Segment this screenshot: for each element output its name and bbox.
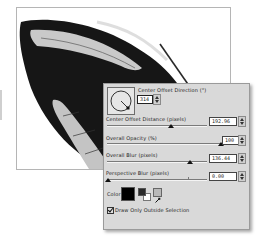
offset-distance-thumb[interactable] — [168, 124, 174, 128]
offset-distance-stepper[interactable] — [238, 116, 246, 127]
draw-outside-label: Draw Only Outside Selection — [115, 207, 189, 213]
stepper-up-icon[interactable] — [240, 137, 244, 140]
track-tick — [188, 177, 189, 180]
blur-thumb[interactable] — [187, 160, 193, 164]
dial-icon — [108, 88, 134, 114]
stepper-down-icon[interactable] — [240, 177, 244, 180]
edge-mark — [0, 90, 2, 120]
stepper-down-icon[interactable] — [240, 122, 244, 125]
perspective-blur-label: Perspective Blur (pixels) — [106, 170, 169, 176]
draw-outside-checkbox[interactable] — [107, 207, 114, 214]
offset-distance-track[interactable] — [107, 125, 207, 127]
stepper-down-icon[interactable] — [240, 141, 244, 144]
perspective-blur-input[interactable]: 0.00 — [209, 172, 237, 181]
perspective-blur-thumb[interactable] — [105, 178, 111, 182]
perspective-blur-track[interactable] — [107, 179, 207, 181]
stepper-up-icon[interactable] — [240, 173, 244, 176]
direction-dial[interactable] — [107, 87, 135, 115]
stepper-down-icon[interactable] — [240, 159, 244, 162]
drop-shadow-panel: Center Offset Direction (°) 314 Center O… — [103, 83, 250, 230]
blur-label: Overall Blur (pixels) — [106, 152, 158, 158]
opacity-stepper[interactable] — [238, 135, 246, 146]
eyedropper-button[interactable] — [153, 188, 162, 197]
opacity-label: Overall Opacity (%) — [106, 135, 157, 141]
color-label: Color — [107, 191, 121, 197]
direction-input[interactable]: 314 — [137, 95, 153, 104]
offset-distance-label: Center Offset Distance (pixels) — [106, 116, 186, 122]
stepper-up-icon[interactable] — [240, 118, 244, 121]
perspective-blur-stepper[interactable] — [238, 171, 246, 182]
opacity-track[interactable] — [107, 143, 222, 145]
offset-distance-input[interactable]: 192.96 — [209, 117, 237, 126]
direction-stepper[interactable] — [153, 94, 161, 105]
stepper-up-icon[interactable] — [240, 155, 244, 158]
blur-stepper[interactable] — [238, 153, 246, 164]
color-swatch[interactable] — [121, 187, 135, 201]
foreground-color-chip[interactable] — [138, 188, 146, 196]
blur-input[interactable]: 136.44 — [209, 154, 237, 163]
direction-label: Center Offset Direction (°) — [138, 87, 206, 93]
stepper-down-icon[interactable] — [155, 100, 159, 103]
stepper-up-icon[interactable] — [155, 96, 159, 99]
eyedropper-icon — [154, 197, 161, 204]
